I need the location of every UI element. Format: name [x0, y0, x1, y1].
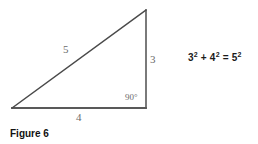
vertical-side-label: 3 [150, 54, 156, 65]
pythagorean-equation: 32 + 42 = 52 [188, 52, 242, 63]
equation-result-exponent: 2 [237, 51, 241, 58]
figure-caption: Figure 6 [10, 128, 49, 139]
base-side-label: 4 [76, 112, 82, 123]
equation-plus-operator: + [198, 52, 210, 63]
figure-panel: 5 3 4 90° 32 + 42 = 52 Figure 6 [0, 0, 258, 144]
hypotenuse-label: 5 [63, 44, 69, 55]
equation-equals-operator: = [220, 52, 232, 63]
right-triangle-diagram [0, 0, 258, 144]
right-angle-label: 90° [125, 93, 138, 102]
